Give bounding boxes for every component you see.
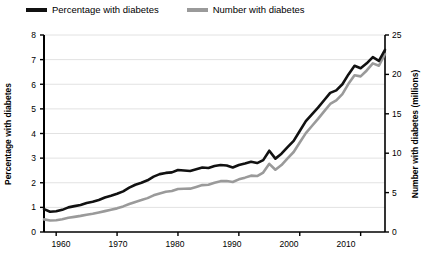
- percentage-with-diabetes-line: [44, 50, 385, 212]
- plot-area: [0, 0, 424, 260]
- axis-ticks: [40, 35, 389, 236]
- diabetes-trend-chart: Percentage with diabetes Number with dia…: [0, 0, 424, 260]
- number-with-diabetes-line: [44, 54, 385, 221]
